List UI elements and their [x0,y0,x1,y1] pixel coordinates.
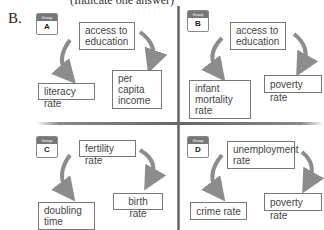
group-b-left-box: infant mortality rate [189,80,251,119]
group-letter: A [37,21,57,33]
group-label: Group [37,137,57,144]
group-b-badge: Group B [187,10,209,32]
group-label: Group [188,11,208,18]
arrow-b-right [294,34,306,66]
arrow-c-right [140,150,153,180]
arrow-a-left [62,40,70,75]
arrow-c-left [62,155,70,192]
group-label: Group [37,14,57,21]
group-c-badge: Group C [36,136,58,158]
group-d-top-box: unemployment rate [227,141,295,169]
arrow-d-left [212,155,222,192]
group-d-left-box: crime rate [190,202,247,220]
group-b-top-box: access to education [230,22,286,50]
arrow-b-left [212,38,222,72]
group-a-left-box: literacy rate [38,83,95,100]
group-a-right-box: per capita income [112,70,162,109]
group-letter: C [37,144,57,156]
group-a-top-box: access to education [79,22,135,50]
group-d-right-box: poverty rate [264,193,322,211]
group-c-top-box: fertility rate [79,140,136,157]
group-letter: B [188,18,208,30]
arrow-d-right [302,152,312,183]
group-a-badge: Group A [36,13,58,35]
group-b-right-box: poverty rate [264,75,322,93]
arrow-a-right [140,32,154,62]
group-c-left-box: doubling time [38,202,95,230]
group-label: Group [188,137,208,144]
group-letter: D [188,144,208,156]
group-d-badge: Group D [187,136,209,158]
group-c-right-box: birth rate [113,193,163,210]
